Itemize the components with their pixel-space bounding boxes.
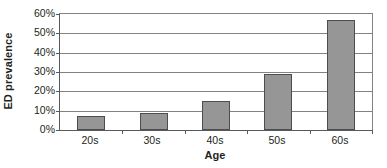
bar — [140, 113, 168, 130]
x-axis-tick-labels: 20s30s40s50s60s — [59, 134, 371, 148]
x-axis-tick-label: 60s — [309, 134, 371, 146]
bar-chart: ED prevalence 60%50%40%30%20%10%0% 20s30… — [0, 0, 387, 168]
gridline — [60, 91, 372, 92]
gridline — [60, 53, 372, 54]
gridline — [60, 72, 372, 73]
y-axis-tick-mark — [56, 72, 60, 73]
y-axis-tick-labels: 60%50%40%30%20%10%0% — [22, 0, 55, 168]
x-axis-tick-label: 40s — [184, 134, 246, 146]
y-axis-tick-label: 20% — [22, 85, 55, 95]
y-axis-tick-mark — [56, 33, 60, 34]
x-axis-tick-mark — [372, 130, 373, 134]
y-axis-tick-label: 50% — [22, 27, 55, 37]
y-axis-tick-label: 60% — [22, 8, 55, 18]
bar — [202, 101, 230, 130]
bar — [77, 116, 105, 130]
x-axis-tick-label: 20s — [59, 134, 121, 146]
x-axis-title: Age — [59, 149, 371, 162]
y-axis-tick-label: 30% — [22, 66, 55, 76]
x-axis-tick-label: 50s — [246, 134, 308, 146]
bar — [264, 74, 292, 130]
y-axis-tick-label: 40% — [22, 47, 55, 57]
y-axis-tick-label: 10% — [22, 105, 55, 115]
y-axis-tick-mark — [56, 111, 60, 112]
x-axis-tick-label: 30s — [121, 134, 183, 146]
plot-area — [59, 13, 373, 131]
bar — [327, 20, 355, 130]
y-axis-tick-mark — [56, 130, 60, 131]
y-axis-tick-mark — [56, 14, 60, 15]
y-axis-tick-label: 0% — [22, 124, 55, 134]
y-axis-title: ED prevalence — [0, 13, 16, 129]
y-axis-tick-mark — [56, 53, 60, 54]
y-axis-tick-mark — [56, 91, 60, 92]
gridline — [60, 33, 372, 34]
